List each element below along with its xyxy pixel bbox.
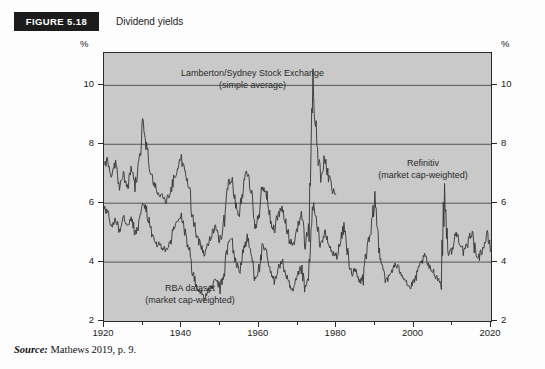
figure-caption-bar: FIGURE 5.18 Dividend yields [14,12,183,31]
y-axis-label-right-10: 10 [501,78,533,89]
y-axis-label-left-6: 6 [62,196,94,207]
y-axis-tick-right [492,143,497,144]
x-axis-tick-major [413,322,414,327]
chart-plot-area [103,52,492,322]
y-axis-label-right-2: 2 [501,314,533,325]
y-axis-label-left-10: 10 [62,78,94,89]
y-axis-label-right-8: 8 [501,137,533,148]
figure-container: FIGURE 5.18 Dividend yields 224466881010… [0,0,545,369]
x-axis-tick-minor [219,322,220,325]
y-axis-tick-left [98,320,103,321]
y-axis-tick-left [98,261,103,262]
x-axis-label-1940: 1940 [155,327,205,338]
source-keyword: Source: [14,344,48,355]
y-axis-tick-left [98,143,103,144]
annotation-refinitiv-line2: (market cap-weighted) [358,170,488,182]
annotation-rba: RBA dataset(market cap-weighted) [115,283,265,306]
y-axis-label-right-6: 6 [501,196,533,207]
x-axis-label-1960: 1960 [233,327,283,338]
x-axis-tick-major [335,322,336,327]
y-axis-tick-right [492,202,497,203]
y-axis-tick-left [98,202,103,203]
annotation-rba-line1: RBA dataset [115,283,265,295]
annotation-lamberton-line1: Lamberton/Sydney Stock Exchange [150,68,355,80]
x-axis-tick-minor [374,322,375,325]
x-axis-label-2000: 2000 [388,327,438,338]
x-axis-tick-major [180,322,181,327]
y-axis-tick-right [492,84,497,85]
y-axis-unit-right: % [501,38,509,49]
series-line-2 [336,183,491,289]
source-note: Source: Mathews 2019, p. 9. [14,344,136,355]
y-axis-label-left-8: 8 [62,137,94,148]
x-axis-tick-major [258,322,259,327]
annotation-lamberton-line2: (simple average) [150,80,355,92]
figure-number-tag: FIGURE 5.18 [14,12,99,31]
y-axis-unit-left: % [80,38,88,49]
y-axis-tick-left [98,84,103,85]
annotation-refinitiv: Refinitiv(market cap-weighted) [358,158,488,181]
annotation-refinitiv-line1: Refinitiv [358,158,488,170]
y-axis-label-right-4: 4 [501,255,533,266]
chart-svg [104,53,491,321]
x-axis-label-1980: 1980 [310,327,360,338]
y-axis-label-left-4: 4 [62,255,94,266]
y-axis-label-left-2: 2 [62,314,94,325]
source-reference: Mathews 2019, p. 9. [48,344,136,355]
annotation-lamberton: Lamberton/Sydney Stock Exchange(simple a… [150,68,355,91]
y-axis-tick-right [492,320,497,321]
x-axis-tick-minor [297,322,298,325]
x-axis-tick-major [490,322,491,327]
y-axis-tick-right [492,261,497,262]
annotation-rba-line2: (market cap-weighted) [115,295,265,307]
x-axis-label-1920: 1920 [78,327,128,338]
x-axis-tick-minor [451,322,452,325]
series-line-0 [104,69,336,256]
figure-caption-title: Dividend yields [99,12,183,31]
x-axis-tick-minor [142,322,143,325]
x-axis-tick-major [103,322,104,327]
x-axis-label-2020: 2020 [465,327,515,338]
